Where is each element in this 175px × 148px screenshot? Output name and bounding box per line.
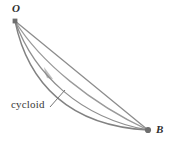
label-origin-O: O <box>12 3 20 14</box>
figure-canvas <box>0 0 175 148</box>
label-terminus-B: B <box>156 124 163 135</box>
direction-arrow-icon <box>44 67 53 79</box>
cycloid-figure: O B cycloid <box>0 0 175 148</box>
label-cycloid: cycloid <box>11 99 45 110</box>
terminus-point-marker <box>145 127 151 133</box>
origin-point-marker <box>13 19 18 24</box>
